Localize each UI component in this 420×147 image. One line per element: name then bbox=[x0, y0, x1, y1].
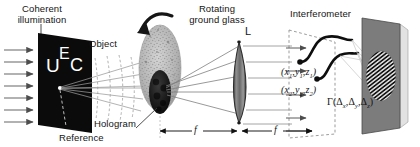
detector-screen bbox=[361, 18, 408, 134]
lens-L bbox=[234, 41, 247, 125]
coordinate-point-1: (x1,y1,z1) bbox=[281, 66, 316, 81]
rotating-line1: Rotating bbox=[199, 3, 235, 14]
coordinate-point-2: (x2,y2,z2) bbox=[281, 84, 316, 99]
illumination-arrows bbox=[4, 50, 33, 122]
interferometer-label: Interferometer bbox=[290, 8, 351, 19]
correlation-function-label: Γ(Δx,Δy,Δz) bbox=[327, 96, 373, 111]
focal-length-left-label: f bbox=[194, 124, 197, 135]
focal-length-right-label: f bbox=[274, 124, 277, 135]
hologram-pointer bbox=[136, 108, 157, 128]
fiber-pickup-2 bbox=[314, 53, 358, 82]
object-letter-e: E bbox=[59, 45, 70, 63]
object-letter-u: U bbox=[46, 55, 60, 77]
object-letter-c: C bbox=[70, 55, 83, 76]
rotating-line2: ground glass bbox=[189, 14, 245, 25]
coherent-illumination-line2: illumination bbox=[18, 14, 67, 25]
coherent-illumination-label: Coherent illumination bbox=[6, 3, 78, 25]
coherent-illumination-line1: Coherent bbox=[22, 3, 62, 14]
object-label: Object bbox=[89, 38, 117, 49]
rotating-ground-glass-label: Rotating ground glass bbox=[172, 3, 262, 25]
lens-label: L bbox=[245, 26, 251, 37]
hologram-label: Hologram bbox=[94, 118, 136, 129]
reference-label: Reference bbox=[59, 132, 104, 143]
holography-setup-figure: Coherent illumination Object Reference H… bbox=[0, 0, 420, 147]
